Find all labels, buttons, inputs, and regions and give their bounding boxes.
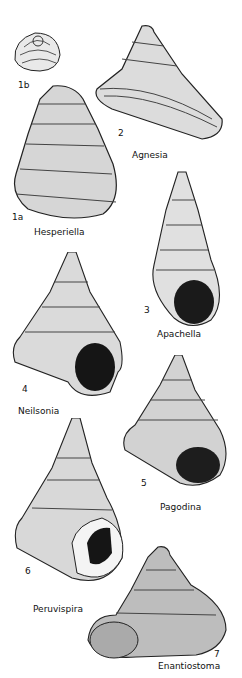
shell-apachella-illustration: [136, 170, 228, 330]
genus-label-apachella: Apachella: [157, 329, 201, 339]
figure-number-7: 7: [214, 649, 220, 659]
figure-number-3: 3: [144, 305, 150, 315]
genus-label-hesperiella: Hesperiella: [34, 227, 85, 237]
gastropod-plate: 1b 2 Agnesia 1a Hesperiella 3 Apachella …: [0, 0, 242, 678]
shell-1b-illustration: [10, 25, 65, 75]
shell-enantiostoma-illustration: [86, 545, 231, 665]
figure-number-1a: 1a: [12, 212, 23, 222]
genus-label-enantiostoma: Enantiostoma: [158, 661, 220, 671]
genus-label-agnesia: Agnesia: [132, 150, 168, 160]
shell-pagodina-illustration: [120, 355, 236, 490]
shell-hesperiella-illustration: [8, 84, 120, 224]
genus-label-neilsonia: Neilsonia: [18, 406, 59, 416]
figure-number-4: 4: [22, 384, 28, 394]
figure-number-6: 6: [25, 566, 31, 576]
shell-neilsonia-illustration: [10, 252, 130, 402]
genus-label-peruvispira: Peruvispira: [33, 604, 83, 614]
genus-label-pagodina: Pagodina: [160, 502, 201, 512]
figure-number-5: 5: [141, 478, 147, 488]
